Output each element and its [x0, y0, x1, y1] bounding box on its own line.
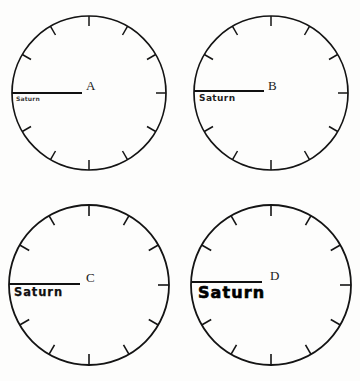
panel-d: D Saturn	[182, 192, 360, 381]
panel-c: C Saturn	[0, 192, 180, 381]
panel-a: A Saturn	[0, 0, 180, 190]
panel-b: B Saturn	[182, 0, 360, 190]
saturn-label-d: Saturn	[198, 285, 265, 301]
saturn-label-c: Saturn	[14, 287, 63, 299]
panel-letter-b: B	[268, 79, 277, 92]
saturn-label-a: Saturn	[16, 96, 40, 102]
panel-letter-a: A	[86, 79, 95, 92]
saturn-label-b: Saturn	[199, 94, 236, 103]
panel-letter-d: D	[270, 269, 279, 282]
panel-letter-c: C	[86, 271, 95, 284]
figure-canvas: A Saturn B Saturn	[0, 0, 360, 381]
